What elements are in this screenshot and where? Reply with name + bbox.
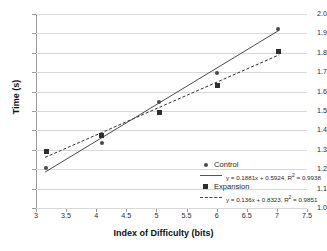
- x-tick-mark: [156, 209, 157, 212]
- x-tick-label: 7: [265, 212, 289, 219]
- x-tick-label: 4: [84, 212, 108, 219]
- x-tick-mark: [247, 209, 248, 212]
- legend-label-control: Control: [214, 160, 238, 170]
- x-tick-label: 4.5: [114, 212, 138, 219]
- data-point: [157, 110, 162, 115]
- x-tick-label: 6.5: [235, 212, 259, 219]
- legend-item-control-fit: y = 0.1881x + 0.5924, R2 = 0.9938: [198, 171, 320, 180]
- x-tick-mark: [126, 209, 127, 212]
- y-axis-title: Time (s): [11, 37, 21, 157]
- data-point: [100, 141, 104, 145]
- x-tick-label: 7.5: [295, 212, 319, 219]
- x-tick-mark: [307, 209, 308, 212]
- legend-equation-control: y = 0.1881x + 0.5924, R2 = 0.9938: [226, 171, 321, 182]
- x-tick-label: 6: [205, 212, 229, 219]
- legend-equation-expansion: y = 0.136x + 0.8323, R2 = 0.9851: [226, 193, 317, 204]
- data-point: [276, 49, 281, 54]
- data-point: [215, 83, 220, 88]
- legend-item-expansion[interactable]: Expansion: [198, 182, 320, 192]
- legend-item-control[interactable]: Control: [198, 160, 320, 170]
- square-marker-icon: [203, 184, 208, 189]
- x-tick-mark: [96, 209, 97, 212]
- data-point: [44, 149, 49, 154]
- trend-line-expansion: [45, 55, 279, 158]
- x-tick-label: 3.5: [54, 212, 78, 219]
- x-tick-label: 5.5: [175, 212, 199, 219]
- gridline: [36, 208, 307, 209]
- legend-item-expansion-fit: y = 0.136x + 0.8323, R2 = 0.9851: [198, 193, 320, 202]
- x-tick-mark: [36, 209, 37, 212]
- solid-line-icon: [200, 175, 222, 176]
- x-axis-title: Index of Difficulty (bits): [0, 228, 327, 238]
- x-tick-label: 5: [144, 212, 168, 219]
- circle-marker-icon: [204, 163, 208, 167]
- x-tick-label: 3: [24, 212, 48, 219]
- x-tick-mark: [66, 209, 67, 212]
- data-point: [99, 133, 104, 138]
- data-point: [276, 27, 280, 31]
- trend-line-control: [45, 30, 279, 172]
- x-tick-mark: [187, 209, 188, 212]
- chart-container: 1.01.11.21.31.41.51.61.71.81.92.0 33.544…: [0, 0, 327, 251]
- legend-label-expansion: Expansion: [214, 182, 249, 192]
- x-tick-mark: [217, 209, 218, 212]
- legend: Control y = 0.1881x + 0.5924, R2 = 0.993…: [198, 160, 320, 204]
- dashed-line-icon: [200, 197, 222, 198]
- x-tick-mark: [277, 209, 278, 212]
